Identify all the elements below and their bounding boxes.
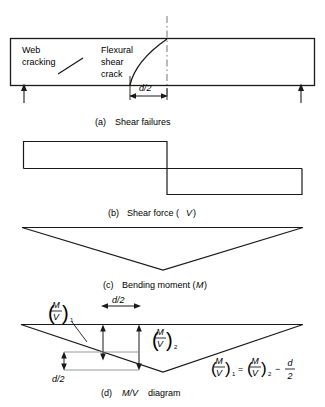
- flexural-crack-label-line3: crack: [101, 69, 123, 79]
- equation-term-denominator: 2: [286, 371, 292, 381]
- equation-rhs-numerator: M: [251, 356, 259, 366]
- panel-c-caption-index: (c): [103, 280, 114, 290]
- label-mv2: ( M V ) 2: [152, 327, 178, 351]
- panel-a-caption: (a) Shear failures: [95, 117, 171, 127]
- support-arrow-left: [21, 84, 27, 104]
- panel-d-caption-index: (d): [101, 388, 112, 398]
- panel-b-caption-symbol: V: [186, 208, 193, 218]
- mv2-denominator: V: [157, 339, 164, 349]
- mv1-subscript: 1: [70, 317, 74, 323]
- mv2-subscript: 2: [174, 344, 178, 350]
- dimension-label-d-over-2-bottom: d/2: [52, 374, 65, 384]
- equation-lhs-denominator: V: [216, 368, 223, 378]
- equation-rhs-subscript: 2: [268, 371, 272, 377]
- equation-lhs-paren-close: ): [225, 359, 231, 378]
- panel-b-caption: (b) Shear force ( V ): [108, 208, 196, 218]
- panel-d-caption: (d) M/V diagram: [101, 388, 181, 398]
- equation-equals: =: [238, 364, 243, 374]
- equation-term-numerator: d: [287, 358, 293, 368]
- panel-a-group: [11, 16, 315, 103]
- support-arrow-right: [298, 84, 304, 104]
- web-cracking-leader: [58, 58, 83, 74]
- figure-svg: Web cracking Flexural shear crack d/2 (a…: [0, 0, 325, 407]
- mv1-numerator: M: [52, 300, 60, 310]
- shear-block-positive: [24, 142, 168, 169]
- panel-c-caption: (c) Bending moment ( M ): [103, 280, 207, 290]
- panel-d-caption-symbol: M/V: [122, 388, 139, 398]
- panel-c-caption-text: Bending moment (: [122, 280, 196, 290]
- mv-equation: ( M V ) 1 = ( M V ) 2 − d 2: [211, 356, 295, 381]
- mv1-paren-close: ): [62, 302, 69, 324]
- beam-outline: [11, 39, 315, 86]
- label-mv1: ( M V ) 1: [48, 300, 74, 324]
- web-cracking-label-line2: cracking: [22, 57, 56, 67]
- equation-lhs-subscript: 1: [232, 371, 236, 377]
- flexural-shear-crack-curve: [130, 39, 167, 85]
- panel-d-caption-text: diagram: [148, 388, 181, 398]
- panel-c-group: [22, 228, 303, 271]
- dimension-d-over-2-bottom-panel-d: [61, 352, 139, 371]
- mv2-numerator: M: [156, 327, 164, 337]
- mv2-paren-close: ): [166, 329, 173, 351]
- equation-rhs-denominator: V: [252, 368, 259, 378]
- panel-c-caption-close: ): [204, 280, 207, 290]
- dimension-label-d-over-2-panel-a: d/2: [139, 83, 152, 93]
- panel-b-caption-index: (b): [108, 208, 119, 218]
- panel-c-caption-symbol: M: [196, 280, 204, 290]
- mv1-denominator: V: [53, 312, 60, 322]
- flexural-crack-label-line2: shear: [101, 57, 124, 67]
- panel-b-caption-close: ): [193, 208, 196, 218]
- equation-rhs-paren-close: ): [261, 359, 267, 378]
- panel-a-caption-index: (a): [95, 117, 106, 127]
- web-cracking-label-line1: Web: [22, 45, 40, 55]
- moment-triangle: [22, 228, 303, 271]
- figure-container: Web cracking Flexural shear crack d/2 (a…: [0, 0, 325, 407]
- equation-lhs-numerator: M: [215, 356, 223, 366]
- dimension-label-d-over-2-top: d/2: [112, 295, 125, 305]
- dimension-mv2-vertical: [136, 325, 142, 371]
- dimension-mv1-vertical: [100, 325, 106, 361]
- panel-b-caption-text: Shear force (: [127, 208, 179, 218]
- flexural-crack-label-line1: Flexural: [101, 45, 133, 55]
- panel-b-group: [24, 142, 303, 195]
- shear-block-negative: [167, 169, 302, 195]
- panel-a-caption-text: Shear failures: [115, 117, 171, 127]
- equation-minus: −: [275, 364, 280, 374]
